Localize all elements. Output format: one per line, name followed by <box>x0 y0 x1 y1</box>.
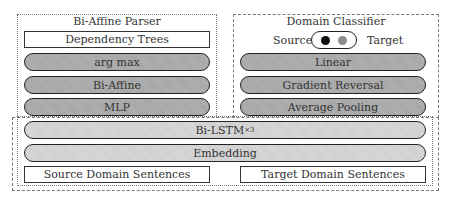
source-dot-icon <box>321 36 330 45</box>
source-sentences-input: Source Domain Sentences <box>24 166 210 183</box>
linear-layer: Linear <box>240 53 426 71</box>
domain-toggle <box>311 31 357 49</box>
toggle-target-label: Target <box>367 34 403 47</box>
bilstm-layer: Bi-LSTM×3 <box>24 121 426 139</box>
classifier-title: Domain Classifier <box>233 15 439 28</box>
toggle-source-label: Source <box>273 34 312 47</box>
biaffine-layer: Bi-Affine <box>24 76 210 94</box>
argmax-layer: arg max <box>24 53 210 71</box>
embedding-layer: Embedding <box>24 144 426 162</box>
bilstm-multiplier: ×3 <box>244 126 254 134</box>
gradient-reversal-layer: Gradient Reversal <box>240 76 426 94</box>
average-pooling-layer: Average Pooling <box>240 98 426 116</box>
mlp-layer: MLP <box>24 98 210 116</box>
bilstm-label: Bi-LSTM <box>195 124 244 137</box>
dependency-trees-output: Dependency Trees <box>24 31 210 48</box>
target-sentences-input: Target Domain Sentences <box>240 166 426 183</box>
target-dot-icon <box>338 36 347 45</box>
parser-title: Bi-Affine Parser <box>17 15 217 28</box>
